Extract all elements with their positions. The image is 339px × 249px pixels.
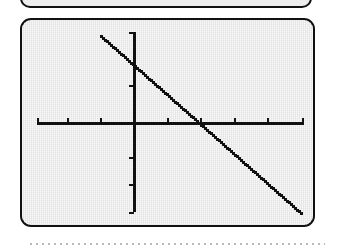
y-tick bbox=[129, 85, 134, 87]
graph-plot-area bbox=[22, 20, 313, 225]
x-tick bbox=[67, 118, 69, 123]
x-tick bbox=[167, 118, 169, 123]
y-tick bbox=[129, 32, 134, 34]
x-tick bbox=[302, 118, 304, 123]
y-tick bbox=[129, 212, 134, 214]
x-tick bbox=[267, 118, 269, 123]
y-tick bbox=[129, 184, 134, 186]
dotted-separator-rule bbox=[30, 243, 325, 245]
x-axis bbox=[37, 122, 304, 125]
previous-calculator-screen-partial bbox=[20, 0, 312, 8]
graphing-calculator-screen[interactable] bbox=[20, 18, 315, 227]
x-tick bbox=[234, 118, 236, 123]
x-tick bbox=[37, 118, 39, 123]
x-tick bbox=[100, 118, 102, 123]
axes-group bbox=[37, 32, 304, 212]
y-tick bbox=[129, 157, 134, 159]
